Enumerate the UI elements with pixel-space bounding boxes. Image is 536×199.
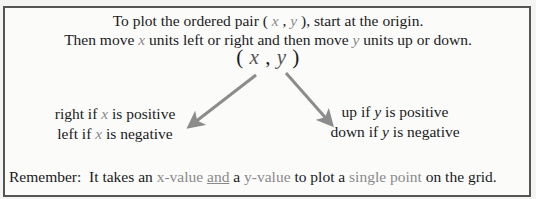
text: down if (330, 123, 382, 140)
single-point-term: single point (349, 168, 422, 185)
rule-y-negative: down if y is negative (300, 122, 490, 142)
y-direction-rules: up if y is positive down if y is negativ… (300, 102, 490, 142)
text: is negative (102, 125, 173, 142)
text: is positive (381, 103, 448, 120)
text: a (229, 168, 244, 185)
text: It takes an (81, 168, 156, 185)
x-value-term: x-value (157, 168, 203, 185)
text: right if (55, 105, 102, 122)
text: left if (57, 125, 95, 142)
remember-label: Remember: (9, 168, 81, 185)
remember-note: Remember: It takes an x-value and a y-va… (9, 168, 497, 186)
rule-y-positive: up if y is positive (300, 102, 490, 122)
rule-x-positive: right if x is positive (25, 104, 205, 124)
var-y: y (382, 123, 389, 140)
text: to plot a (291, 168, 350, 185)
and-emphasis: and (207, 168, 229, 185)
text: is positive (108, 105, 175, 122)
x-direction-rules: right if x is positive left if x is nega… (25, 104, 205, 144)
rule-x-negative: left if x is negative (25, 124, 205, 144)
text: on the grid. (422, 168, 497, 185)
text: up if (342, 103, 375, 120)
y-value-term: y-value (244, 168, 290, 185)
text: is negative (389, 123, 460, 140)
